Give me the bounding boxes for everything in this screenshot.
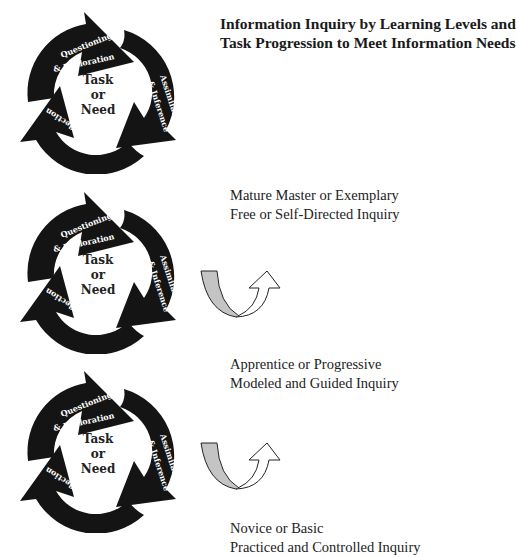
- level-novice: Novice or Basic Practiced and Controlled…: [230, 519, 420, 557]
- svg-text:or: or: [91, 447, 106, 461]
- inquiry-cycle-bottom: Task or Need Questioning & Exploration A…: [16, 369, 180, 533]
- progression-arrow-icon: [198, 440, 288, 492]
- level-apprentice: Apprentice or Progressive Modeled and Gu…: [230, 355, 399, 393]
- inquiry-cycle-top: Task or Need Questioning & Exploration A…: [16, 10, 180, 174]
- title-line-2: Task Progression to Meet Information Nee…: [220, 33, 516, 52]
- svg-text:Need: Need: [81, 462, 116, 476]
- svg-text:Task: Task: [83, 432, 114, 446]
- inquiry-cycle-middle: Task or Need Questioning & Exploration A…: [16, 190, 180, 354]
- cycle-center-1: Task: [83, 73, 114, 87]
- svg-text:Need: Need: [81, 103, 116, 117]
- title-line-1: Information Inquiry by Learning Levels a…: [220, 14, 516, 33]
- svg-text:Task: Task: [83, 253, 114, 267]
- svg-text:Need: Need: [81, 283, 116, 297]
- diagram-title: Information Inquiry by Learning Levels a…: [220, 14, 516, 52]
- progression-arrow-icon: [198, 268, 288, 320]
- svg-text:or: or: [91, 88, 106, 102]
- level-mature: Mature Master or Exemplary Free or Self-…: [230, 186, 400, 224]
- svg-text:or: or: [91, 268, 106, 282]
